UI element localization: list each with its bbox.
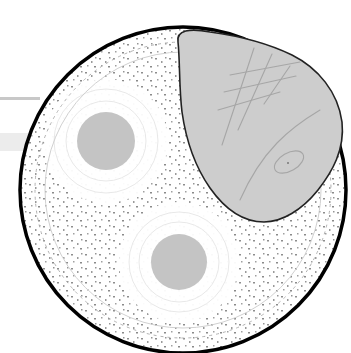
cell-diagram [0,0,351,353]
nucleus-lower [151,234,207,290]
illustration [0,0,351,353]
nucleus-upper-left [77,112,135,170]
